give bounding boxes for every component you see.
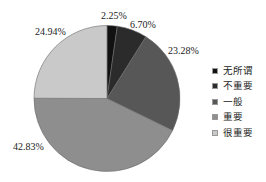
legend-item-henzhongyao: 很重要: [212, 125, 253, 141]
legend-item-zhongyao: 重要: [212, 110, 253, 126]
legend-swatch: [212, 68, 218, 74]
legend-label: 一般: [223, 97, 243, 107]
legend-swatch: [212, 130, 218, 136]
legend-item-yiban: 一般: [212, 94, 253, 110]
legend-swatch: [212, 83, 218, 89]
slice-label-zhongyao: 42.83%: [13, 142, 44, 152]
legend: 无所谓 不重要 一般 重要 很重要: [212, 63, 253, 141]
legend-swatch: [212, 99, 218, 105]
slice-label-yiban: 23.28%: [168, 46, 199, 56]
legend-label: 不重要: [223, 81, 253, 91]
slice-label-wusuowei: 2.25%: [101, 11, 127, 21]
legend-item-buzhongyao: 不重要: [212, 79, 253, 95]
legend-swatch: [212, 114, 218, 120]
legend-label: 重要: [223, 112, 243, 122]
legend-label: 无所谓: [223, 66, 253, 76]
slice-label-henzhongyao: 24.94%: [35, 27, 66, 37]
legend-item-wusuowei: 无所谓: [212, 63, 253, 79]
slice-label-buzhongyao: 6.70%: [130, 20, 156, 30]
legend-label: 很重要: [223, 128, 253, 138]
